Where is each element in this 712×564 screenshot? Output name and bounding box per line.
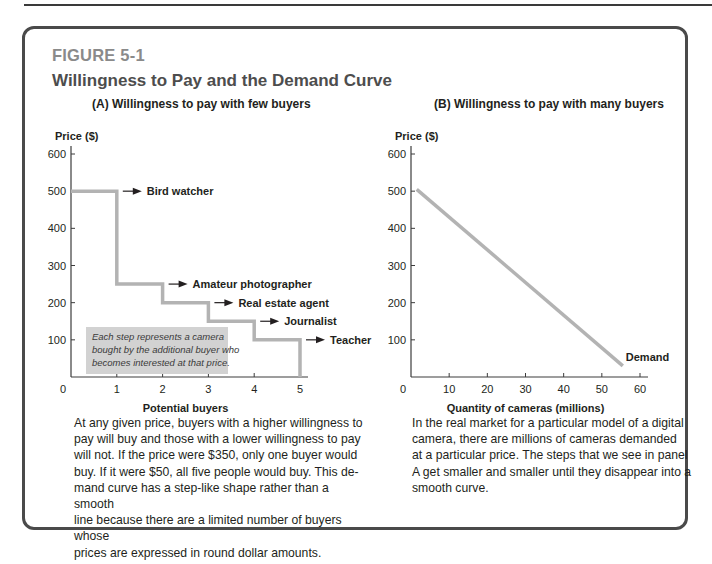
demand-curve [417,189,623,366]
buyer-label: Real estate agent [238,297,329,309]
panel-b-x-tick-label: 60 [634,383,646,395]
panel-b-x-tick-label: 30 [519,383,531,395]
caption-line: camera, there are millions of cameras de… [412,431,692,447]
buyer-label: Teacher [330,334,372,346]
panel-b-x-tick-label: 20 [481,383,493,395]
arrow-right-icon [224,299,233,306]
arrow-right-icon [179,281,188,288]
panel-a-y-tick-label: 400 [48,222,66,234]
panel-a-x-tick-label: 4 [251,383,257,395]
buyer-label: Journalist [284,315,337,327]
note-text: Each step represents a camera [92,331,224,342]
panel-a-y-tick-label: 600 [48,148,66,160]
panel-b-y-tick-label: 200 [388,297,406,309]
panel-a-x-tick-label: 2 [160,383,166,395]
panel-a-x-tick-label: 0 [60,383,66,395]
panel-b-y-tick-label: 600 [388,148,406,160]
panel-b-x-axis-label: Quantity of cameras (millions) [447,402,605,414]
panel-a-x-tick-label: 1 [114,383,120,395]
panel-b-y-tick-label: 100 [388,334,406,346]
caption-line: pay will buy and those with a lower will… [74,431,364,447]
buyer-label: Amateur photographer [193,278,313,290]
panel-a-x-tick-label: 3 [205,383,211,395]
panel-b-caption: In the real market for a particular mode… [412,415,692,496]
caption-line: prices are expressed in round dollar amo… [74,545,364,561]
caption-line: will not. If the price were $350, only o… [74,447,364,463]
note-text: bought by the additional buyer who [92,344,239,355]
panel-b-y-tick-label: 500 [388,185,406,197]
caption-line: A get smaller and smaller until they dis… [412,464,692,480]
panel-b-x-tick-label: 0 [400,383,406,395]
panel-a-caption: At any given price, buyers with a higher… [74,415,364,561]
note-text: becomes interested at that price. [92,357,230,368]
panel-b-x-tick-label: 10 [443,383,455,395]
panel-a-y-tick-label: 300 [48,260,66,272]
panel-a-y-axis-label: Price ($) [55,130,99,142]
caption-line: smooth curve. [412,480,692,496]
panel-b-y-axis-label: Price ($) [395,130,439,142]
arrow-right-icon [133,188,142,195]
panel-a-y-tick-label: 200 [48,297,66,309]
caption-line: mand curve has a step-like shape rather … [74,480,364,512]
caption-line: at a particular price. The steps that we… [412,447,692,463]
buyer-label: Bird watcher [147,185,214,197]
panel-b-y-tick-label: 400 [388,222,406,234]
panel-a-x-axis-label: Potential buyers [143,402,229,414]
arrow-right-icon [270,318,279,325]
panel-b-x-tick-label: 40 [558,383,570,395]
caption-line: At any given price, buyers with a higher… [74,415,364,431]
panel-a-y-tick-label: 500 [48,185,66,197]
caption-line: line because there are a limited number … [74,512,364,544]
arrow-right-icon [316,336,325,343]
panel-b-y-tick-label: 300 [388,260,406,272]
panel-a-y-tick-label: 100 [48,334,66,346]
caption-line: buy. If it were $50, all five people wou… [74,464,364,480]
panel-a-x-tick-label: 5 [297,383,303,395]
panel-b-x-tick-label: 50 [596,383,608,395]
caption-line: In the real market for a particular mode… [412,415,692,431]
demand-label: Demand [626,351,669,363]
